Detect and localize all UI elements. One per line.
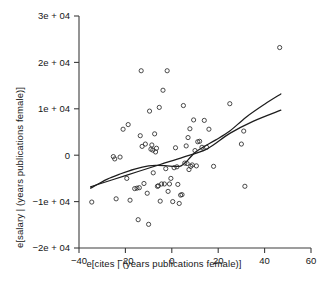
data-point: [169, 176, 173, 180]
data-point: [192, 118, 196, 122]
data-point: [181, 103, 185, 107]
scatter-plot-figure: −2e + 04−1e + 0401e + 042e + 043e + 04 −…: [0, 0, 328, 282]
data-point: [228, 102, 232, 106]
data-point: [165, 69, 169, 73]
data-point: [278, 45, 282, 49]
y-axis-label: e[salary | (years publications female)]: [14, 87, 25, 248]
data-point: [151, 171, 155, 175]
data-point: [125, 176, 129, 180]
data-point: [171, 200, 175, 204]
data-point: [114, 197, 118, 201]
data-point: [147, 109, 151, 113]
data-point: [177, 201, 181, 205]
data-point: [202, 118, 206, 122]
lowess-fit: [91, 94, 281, 188]
data-point: [128, 198, 132, 202]
data-point: [243, 184, 247, 188]
linear-fit: [91, 110, 281, 187]
data-point: [158, 199, 162, 203]
fit-curves-group: [91, 94, 281, 188]
data-point: [207, 127, 211, 131]
data-point: [90, 200, 94, 204]
y-tick-group: −2e + 04−1e + 0401e + 042e + 043e + 04: [32, 10, 79, 253]
data-point: [211, 164, 215, 168]
data-point: [138, 134, 142, 138]
data-point: [242, 129, 246, 133]
data-point: [126, 122, 130, 126]
y-tick-label: −1e + 04: [32, 196, 70, 207]
data-points-group: [90, 45, 282, 226]
data-point: [121, 127, 125, 131]
data-point: [142, 181, 146, 185]
y-tick-label: 1e + 04: [38, 103, 70, 114]
plot-canvas: −2e + 04−1e + 0401e + 042e + 043e + 04 −…: [0, 0, 328, 282]
data-point: [161, 88, 165, 92]
data-point: [139, 69, 143, 73]
data-point: [184, 144, 188, 148]
y-tick-label: 0: [65, 150, 70, 161]
data-point: [188, 127, 192, 131]
data-point: [162, 182, 166, 186]
y-tick-label: 3e + 04: [38, 10, 70, 21]
data-point: [150, 143, 154, 147]
data-point: [157, 105, 161, 109]
y-tick-label: 2e + 04: [38, 57, 70, 68]
data-point: [147, 222, 151, 226]
data-point: [176, 182, 180, 186]
axes-group: [79, 16, 311, 248]
data-point: [164, 167, 168, 171]
data-point: [239, 142, 243, 146]
data-point: [194, 164, 198, 168]
data-point: [186, 135, 190, 139]
data-point: [166, 189, 170, 193]
data-point: [145, 191, 149, 195]
data-point: [173, 146, 177, 150]
data-point: [118, 155, 122, 159]
data-point: [143, 142, 147, 146]
x-axis-label: e[cites | (years publications female)]: [0, 258, 328, 269]
data-point: [167, 182, 171, 186]
data-point: [153, 132, 157, 136]
y-tick-label: −2e + 04: [32, 242, 70, 253]
data-point: [136, 218, 140, 222]
